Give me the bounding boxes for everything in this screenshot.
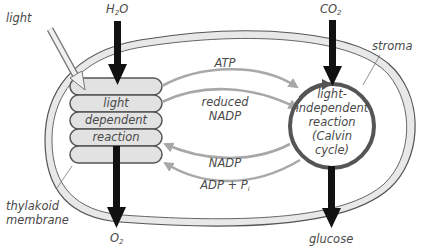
atp-label: ATP	[190, 57, 260, 70]
adp-pi-label: ADP + Pi	[180, 179, 270, 196]
water-input-label: H2O	[106, 3, 128, 20]
light-independent-line2: independent	[290, 102, 374, 115]
reduced-nadp-label-1: reduced	[190, 96, 260, 109]
light-dependent-line2: dependent	[70, 114, 162, 127]
co2-input-label: CO2	[320, 3, 342, 20]
light-dependent-line3: reaction	[70, 131, 162, 144]
thylakoid-label-1: thylakoid	[6, 200, 59, 213]
nadp-label: NADP	[190, 157, 260, 170]
light-independent-line5: cycle)	[290, 144, 374, 157]
stroma-label: stroma	[372, 40, 413, 53]
reduced-nadp-label-2: NADP	[190, 110, 260, 123]
light-independent-line3: reaction	[290, 116, 374, 129]
light-dependent-line1: light	[70, 97, 162, 110]
light-independent-line1: light-	[290, 88, 374, 101]
light-label: light	[6, 12, 32, 25]
light-independent-line4: (Calvin	[290, 130, 374, 143]
glucose-output-label: glucose	[309, 233, 353, 246]
thylakoid-label-2: membrane	[6, 214, 69, 227]
oxygen-output-label: O2	[110, 232, 124, 249]
